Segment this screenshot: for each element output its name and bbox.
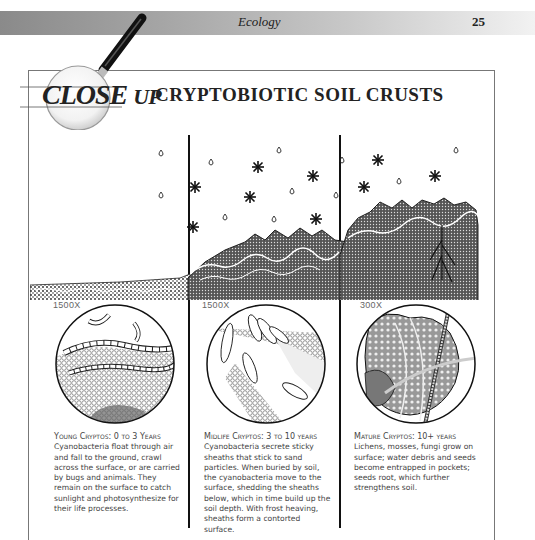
feature-title: CRYPTOBIOTIC SOIL CRUSTS: [155, 84, 444, 106]
page-number: 25: [472, 14, 485, 30]
caption-body: Lichens, mosses, fungi grow on surface; …: [354, 442, 476, 492]
running-header-title: Ecology: [238, 14, 281, 30]
microscope-view-young-crust: [54, 303, 176, 425]
closeup-logo-left: CLOSE: [42, 79, 127, 110]
caption-body: Cyanobacteria secrete sticky sheaths tha…: [204, 442, 330, 533]
caption-mature-cryptos: Mature Cryptos: 10+ years Lichens, mosse…: [354, 432, 482, 494]
caption-heading: Mature Cryptos: 10+ years: [354, 432, 482, 442]
caption-heading: Young Cryptos: 0 to 3 Years: [54, 432, 180, 442]
caption-midlife-cryptos: Midlife Cryptos: 3 to 10 years Cyanobact…: [204, 432, 332, 535]
microscope-view-mature-crust: [355, 303, 477, 425]
microscope-view-midlife-crust: [205, 303, 327, 425]
caption-body: Cyanobacteria float through air and fall…: [54, 442, 180, 513]
closeup-logo: CLOSEUP: [42, 79, 161, 111]
soil-crust-cross-section-illustration: [30, 130, 495, 300]
caption-heading: Midlife Cryptos: 3 to 10 years: [204, 432, 332, 442]
caption-young-cryptos: Young Cryptos: 0 to 3 Years Cyanobacteri…: [54, 432, 180, 514]
